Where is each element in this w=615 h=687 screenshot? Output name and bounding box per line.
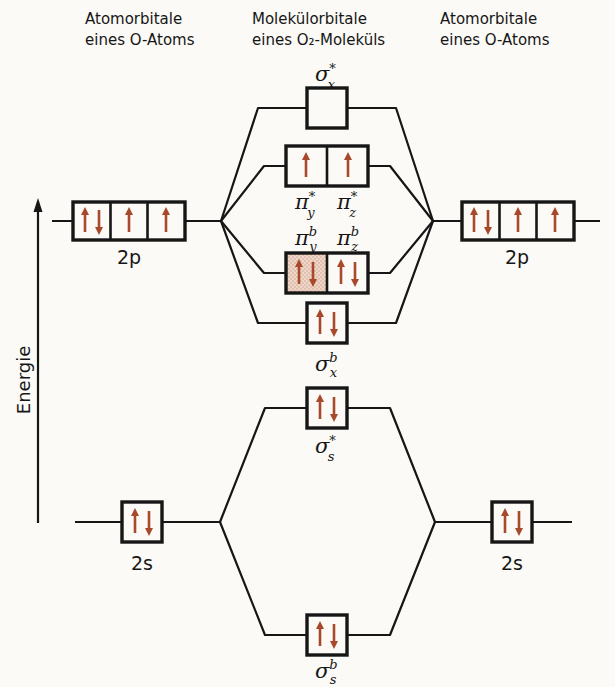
shaded-cell <box>286 253 327 293</box>
header-center-line1: Molekülorbitale <box>252 10 367 28</box>
header-right-line2: eines O-Atoms <box>440 31 550 49</box>
label-pi-z-b: πbz <box>336 224 359 254</box>
ao-left-2s-box <box>122 502 162 542</box>
diagram-canvas: Atomorbitale eines O-Atoms Molekülorbita… <box>0 0 615 687</box>
label-pi-y-b: πby <box>294 224 317 254</box>
spin-down-arrow-icon <box>330 312 338 337</box>
connector-line <box>220 522 307 635</box>
label-sigma-s-b: σbs <box>315 657 338 687</box>
energy-axis-label: Energie <box>13 346 34 414</box>
label-left-2p: 2p <box>117 246 141 268</box>
spin-up-arrow-icon <box>316 309 324 334</box>
label-right-2s: 2s <box>501 552 523 574</box>
column-headers: Atomorbitale eines O-Atoms Molekülorbita… <box>85 10 550 49</box>
connector-line <box>347 408 435 522</box>
label-sigma-x-b: σbx <box>315 350 338 380</box>
ao-right-2s-box <box>492 502 532 542</box>
mo-sigma-x-b-box <box>307 303 347 343</box>
energy-axis: Energie <box>13 198 43 523</box>
connector-line <box>347 522 435 635</box>
mo-energy-diagram: Atomorbitale eines O-Atoms Molekülorbita… <box>0 0 615 687</box>
header-left-line2: eines O-Atoms <box>85 31 195 49</box>
mo-sigma-s-b-box <box>307 615 347 655</box>
label-left-2s: 2s <box>131 552 153 574</box>
energy-axis-arrow-icon <box>34 198 43 212</box>
header-center-line2: eines O₂-Moleküls <box>252 31 385 49</box>
connector-line <box>220 408 307 522</box>
label-sigma-s-star: σ*s <box>315 433 336 464</box>
header-left-line1: Atomorbitale <box>85 10 182 28</box>
label-pi-y-star: π*y <box>294 189 316 220</box>
white-cell <box>327 253 368 293</box>
mo-pi-star-boxes <box>286 146 368 186</box>
mo-sigma-s-star-box <box>307 388 347 428</box>
mo-sigma-x-star-box <box>307 88 347 128</box>
label-pi-z-star: π*z <box>336 189 358 220</box>
label-right-2p: 2p <box>505 246 529 268</box>
header-right-line1: Atomorbitale <box>440 10 537 28</box>
